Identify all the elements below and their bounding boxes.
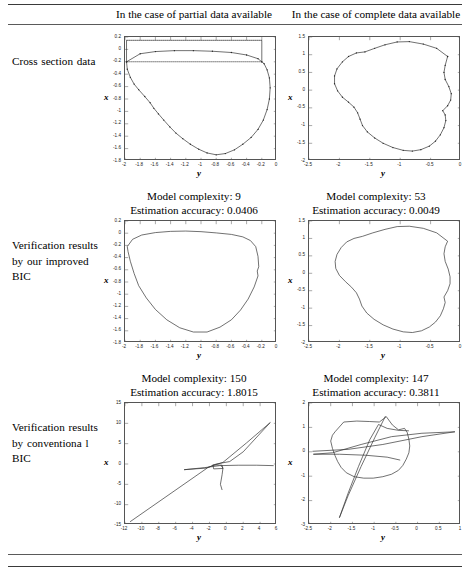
header-complete-data: In the case of complete data available bbox=[286, 6, 466, 22]
y-tick-label: 1 bbox=[288, 235, 305, 240]
figure-cross-section-partial: 0.20-0.2-0.4-0.6-0.8-1-1.2-1.4-1.6-1.8-2… bbox=[104, 30, 282, 182]
plot-area bbox=[124, 402, 276, 524]
x-axis-label: y bbox=[381, 168, 385, 178]
plot-area bbox=[124, 36, 276, 160]
series-spike-down bbox=[339, 416, 385, 518]
table-rule-header bbox=[8, 24, 462, 25]
x-tick-label: -1 bbox=[390, 162, 408, 167]
y-tick-label: -1 bbox=[288, 122, 305, 127]
x-tick-label: 0 bbox=[216, 526, 234, 531]
y-axis-label: x bbox=[104, 92, 109, 102]
y-tick-label: -1.5 bbox=[288, 140, 305, 145]
y-tick-label: -1.5 bbox=[288, 322, 305, 327]
table-rule-bottom bbox=[8, 554, 462, 555]
caption-model-complexity: Model complexity: 53 bbox=[326, 190, 425, 202]
x-tick-label: -0.5 bbox=[386, 526, 404, 531]
x-tick-label: -8 bbox=[149, 526, 167, 531]
x-tick-label: 6 bbox=[267, 526, 285, 531]
y-tick-label: 0.5 bbox=[288, 252, 305, 257]
series-closed-contour bbox=[335, 42, 452, 151]
figure-improved-bic-complete: 1.510.50-0.5-1-1.5-2-2.5-2-1.5-1-0.50yx bbox=[288, 214, 466, 362]
series-divergent-path-a bbox=[130, 423, 270, 522]
y-axis-label: x bbox=[288, 457, 293, 467]
y-tick-label: -0.6 bbox=[104, 83, 121, 88]
y-tick-label: 0 bbox=[104, 230, 121, 235]
x-tick-label: -1.5 bbox=[360, 162, 378, 167]
y-axis-label: x bbox=[288, 92, 293, 102]
y-axis-label: x bbox=[104, 457, 109, 467]
y-tick-label: -0.5 bbox=[288, 104, 305, 109]
x-tick-label: -1 bbox=[390, 344, 408, 349]
x-tick-label: 0 bbox=[451, 344, 469, 349]
x-tick-label: -2 bbox=[329, 344, 347, 349]
y-tick-label: 1 bbox=[288, 424, 305, 429]
y-tick-label: -0.4 bbox=[104, 71, 121, 76]
x-tick-label: -2.5 bbox=[299, 344, 317, 349]
series-divergent-path-d bbox=[220, 466, 223, 490]
x-tick-label: 4 bbox=[250, 526, 268, 531]
y-axis-label: x bbox=[104, 275, 109, 285]
y-tick-label: -1.4 bbox=[104, 315, 121, 320]
x-tick-label: 2 bbox=[233, 526, 251, 531]
y-tick-label: -0.6 bbox=[104, 266, 121, 271]
y-tick-label: -0.2 bbox=[104, 242, 121, 247]
x-tick-label: -1 bbox=[364, 526, 382, 531]
table-rule-footer bbox=[8, 566, 462, 567]
x-tick-label: -1.5 bbox=[360, 344, 378, 349]
caption-model-complexity: Model complexity: 9 bbox=[147, 190, 241, 202]
y-tick-label: -1.6 bbox=[104, 327, 121, 332]
y-tick-label: -1.2 bbox=[104, 303, 121, 308]
y-tick-label: -1.4 bbox=[104, 133, 121, 138]
table-header-row: In the case of partial data available In… bbox=[0, 6, 470, 24]
x-tick-label: 0 bbox=[451, 162, 469, 167]
y-tick-label: -1 bbox=[288, 473, 305, 478]
y-tick-label: 1.5 bbox=[288, 218, 305, 223]
y-axis-label: x bbox=[288, 275, 293, 285]
series-fitted-contour bbox=[127, 231, 258, 332]
y-tick-label: 1 bbox=[288, 51, 305, 56]
series-fitted-contour bbox=[335, 226, 450, 332]
figure-cross-section-complete: 1.510.50-0.5-1-1.5-2-2.5-2-1.5-1-0.50yx bbox=[288, 30, 466, 182]
series-divergent-path-b bbox=[184, 423, 270, 470]
x-axis-label: y bbox=[197, 532, 201, 542]
y-tick-label: -10 bbox=[104, 501, 121, 506]
x-tick-label: -2 bbox=[321, 526, 339, 531]
table-rule-top bbox=[8, 4, 462, 5]
series-mid-arc bbox=[127, 51, 262, 62]
x-tick-label: -12 bbox=[115, 526, 133, 531]
header-partial-data: In the case of partial data available bbox=[104, 6, 284, 22]
y-tick-label: -1 bbox=[288, 305, 305, 310]
figure-conventional-bic-partial: 151050-5-10-15-12-10-8-6-4-20246yx bbox=[104, 396, 282, 544]
series-long-crossing-a bbox=[312, 432, 454, 452]
x-tick-label: -2 bbox=[199, 526, 217, 531]
x-tick-label: -10 bbox=[132, 526, 150, 531]
x-tick-label: -0.5 bbox=[421, 344, 439, 349]
caption-improved-bic-partial: Model complexity: 9 Estimation accuracy:… bbox=[104, 190, 284, 217]
y-tick-label: 10 bbox=[104, 420, 121, 425]
y-tick-label: -1.6 bbox=[104, 145, 121, 150]
plot-area bbox=[308, 402, 460, 524]
y-tick-label: -1 bbox=[104, 108, 121, 113]
x-tick-label: 1 bbox=[451, 526, 469, 531]
plot-area bbox=[308, 36, 460, 160]
y-tick-label: 2 bbox=[288, 400, 305, 405]
y-tick-label: 0 bbox=[288, 87, 305, 92]
caption-model-complexity: Model complexity: 147 bbox=[323, 372, 428, 384]
x-tick-label: 0 bbox=[408, 526, 426, 531]
y-tick-label: -2 bbox=[288, 497, 305, 502]
y-tick-label: -0.4 bbox=[104, 254, 121, 259]
y-tick-label: -0.2 bbox=[104, 58, 121, 63]
x-tick-label: -2.5 bbox=[299, 162, 317, 167]
caption-improved-bic-complete: Model complexity: 53 Estimation accuracy… bbox=[286, 190, 466, 217]
x-tick-label: -2 bbox=[329, 162, 347, 167]
figure-improved-bic-partial: 0.20-0.2-0.4-0.6-0.8-1-1.2-1.4-1.6-1.8-2… bbox=[104, 214, 282, 362]
x-tick-label: 0 bbox=[267, 344, 285, 349]
x-tick-label: 0 bbox=[267, 162, 285, 167]
y-tick-label: -0.5 bbox=[288, 287, 305, 292]
figure-conventional-bic-complete: 210-1-2-3-2.5-2-1.5-1-0.500.51yx bbox=[288, 396, 466, 544]
series-measured-contour bbox=[127, 62, 271, 155]
plot-area bbox=[124, 220, 276, 342]
x-axis-label: y bbox=[381, 532, 385, 542]
series-long-crossing-c bbox=[313, 454, 400, 460]
caption-conventional-bic-partial: Model complexity: 150 Estimation accurac… bbox=[104, 372, 284, 399]
